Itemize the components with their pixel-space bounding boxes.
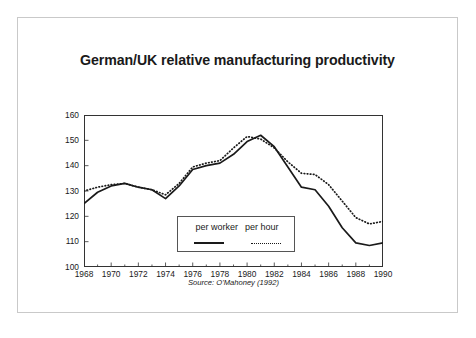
- y-axis-tick-label: 120: [43, 212, 79, 221]
- legend-key-solid: [184, 238, 234, 248]
- legend-label: per worker: [195, 222, 238, 232]
- legend-label: per hour: [245, 222, 279, 232]
- series-line-per-hour: [84, 137, 383, 224]
- legend-swatch: [251, 243, 281, 244]
- y-axis-tick-label: 160: [43, 111, 79, 120]
- chart-legend: per workerper hour: [177, 216, 295, 252]
- slide-canvas: German/UK relative manufacturing product…: [0, 0, 476, 338]
- source-note: Source: O'Mahoney (1992): [84, 278, 383, 287]
- page-title: German/UK relative manufacturing product…: [17, 52, 458, 68]
- legend-keys: [178, 238, 296, 248]
- legend-swatch: [194, 242, 224, 244]
- legend-labels: per workerper hour: [178, 222, 296, 232]
- y-axis-tick-label: 130: [43, 187, 79, 196]
- legend-key-dotted: [241, 238, 291, 248]
- y-axis-tick-label: 140: [43, 161, 79, 170]
- y-axis-tick-label: 150: [43, 136, 79, 145]
- y-axis-tick-label: 110: [43, 237, 79, 246]
